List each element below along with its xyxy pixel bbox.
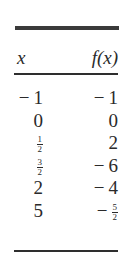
cell-x: 2: [34, 177, 44, 199]
cell-fx: 0: [109, 110, 119, 132]
fraction: 12: [37, 135, 44, 154]
table-row: −1 −1: [0, 87, 138, 109]
table-row: 12 2: [0, 132, 138, 154]
fraction: 32: [37, 158, 44, 177]
cell-x: −1: [19, 87, 43, 109]
cell-fx: −4: [94, 177, 118, 199]
header-fx: f(x): [92, 47, 118, 69]
cell-x: 12: [37, 132, 44, 154]
cell-x: 32: [37, 155, 44, 177]
table-row: 5 −52: [0, 200, 138, 222]
table-row: 32 −6: [0, 155, 138, 177]
cell-x: 5: [34, 200, 44, 222]
bottom-rule: [14, 250, 118, 252]
cell-x: 0: [34, 110, 44, 132]
cell-fx: 2: [109, 132, 119, 154]
header-rule: [14, 73, 118, 75]
header-x: x: [17, 47, 25, 69]
table-row: 2 −4: [0, 177, 138, 199]
fraction: 52: [112, 203, 119, 222]
top-rule: [15, 26, 119, 30]
cell-fx: −1: [94, 87, 118, 109]
cell-fx: −52: [97, 200, 118, 222]
cell-fx: −6: [94, 155, 118, 177]
table-row: 0 0: [0, 110, 138, 132]
